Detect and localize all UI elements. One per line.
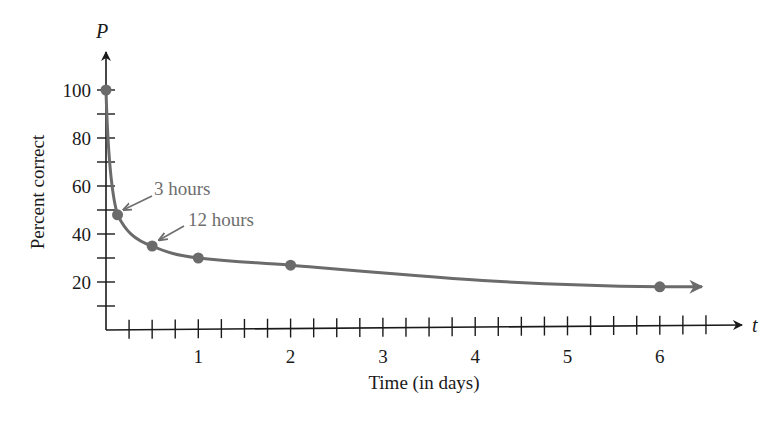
y-tick-label: 40	[72, 224, 91, 245]
x-tick-label: 2	[286, 346, 296, 367]
annotation-label: 3 hours	[154, 178, 210, 199]
y-tick-label: 20	[72, 272, 91, 293]
annotation-arrow	[124, 196, 152, 210]
x-tick-label: 6	[655, 346, 665, 367]
annotation-arrow	[159, 226, 184, 240]
annotation-label: 12 hours	[188, 209, 254, 230]
x-tick-label: 1	[194, 346, 204, 367]
x-axis-variable: t	[752, 314, 758, 336]
y-tick-label: 80	[72, 128, 91, 149]
x-tick-label: 4	[470, 346, 480, 367]
y-tick-label: 60	[72, 176, 91, 197]
chart: 12345620406080100 3 hours12 hours P t Ti…	[0, 0, 779, 421]
data-point	[147, 241, 158, 252]
annotations: 3 hours12 hours	[124, 178, 254, 240]
data-point	[285, 260, 296, 271]
y-axis-variable: P	[95, 20, 108, 42]
data-point	[193, 253, 204, 264]
x-tick-label: 3	[378, 346, 388, 367]
y-axis-title: Percent correct	[27, 134, 48, 249]
data-point	[654, 281, 665, 292]
x-tick-label: 5	[563, 346, 573, 367]
data-point	[101, 85, 112, 96]
y-tick-label: 100	[63, 80, 92, 101]
x-axis-line	[106, 325, 742, 330]
x-axis-title: Time (in days)	[368, 372, 479, 394]
data-point	[112, 209, 123, 220]
